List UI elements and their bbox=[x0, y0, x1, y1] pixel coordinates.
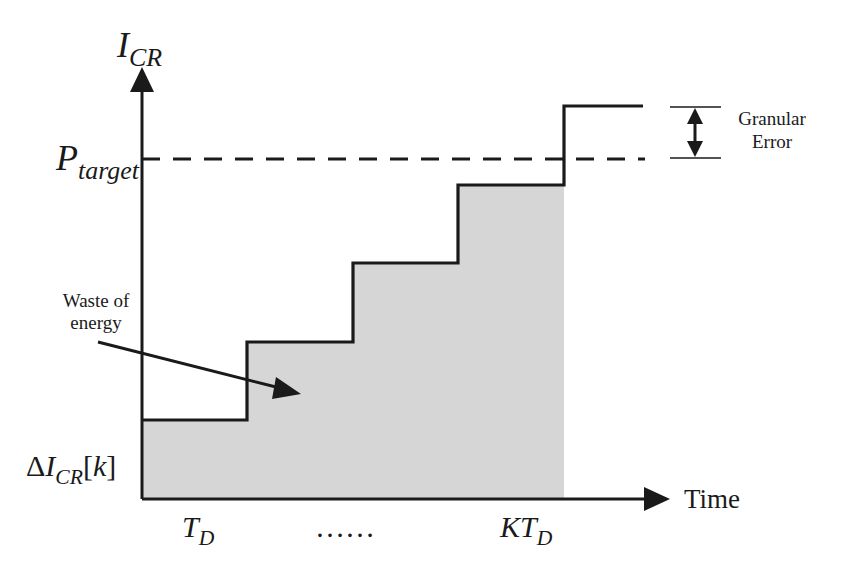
initial-step-symbol: I bbox=[45, 449, 55, 482]
granular-error-down-arrow-icon bbox=[687, 141, 703, 157]
delta-symbol: Δ bbox=[26, 449, 45, 482]
granular-error-line2: Error bbox=[724, 132, 820, 151]
x-tick-ellipsis: …… bbox=[315, 512, 375, 542]
x-axis-label: Time bbox=[684, 486, 740, 513]
waste-annotation-line2: energy bbox=[40, 313, 152, 332]
initial-step-subscript: CR bbox=[55, 465, 83, 489]
initial-step-label: ΔICR[k] bbox=[26, 451, 116, 481]
x-tick-ktd-subscript: D bbox=[537, 526, 553, 550]
x-tick-td-subscript: D bbox=[199, 526, 215, 550]
x-axis-arrowhead-icon bbox=[644, 487, 670, 511]
x-tick-td-symbol: T bbox=[182, 510, 199, 543]
target-level-label: Ptarget bbox=[56, 140, 139, 176]
initial-step-index: k bbox=[93, 449, 106, 482]
granular-error-annotation: Granular Error bbox=[724, 109, 820, 151]
granular-error-line1: Granular bbox=[724, 109, 820, 128]
waste-annotation-line1: Waste of bbox=[40, 291, 152, 310]
x-tick-ktd: KTD bbox=[500, 512, 552, 542]
bracket-open: [ bbox=[83, 449, 93, 482]
target-subscript: target bbox=[78, 156, 139, 185]
x-tick-td: TD bbox=[182, 512, 214, 542]
y-axis-subscript: CR bbox=[129, 43, 162, 72]
granular-error-up-arrow-icon bbox=[687, 108, 703, 124]
x-tick-ktd-symbol: KT bbox=[500, 510, 537, 543]
bracket-close: ] bbox=[106, 449, 116, 482]
target-symbol: P bbox=[56, 138, 78, 178]
y-axis-label: ICR bbox=[117, 27, 162, 63]
waste-annotation: Waste of energy bbox=[40, 291, 152, 332]
y-axis-symbol: I bbox=[117, 25, 129, 65]
